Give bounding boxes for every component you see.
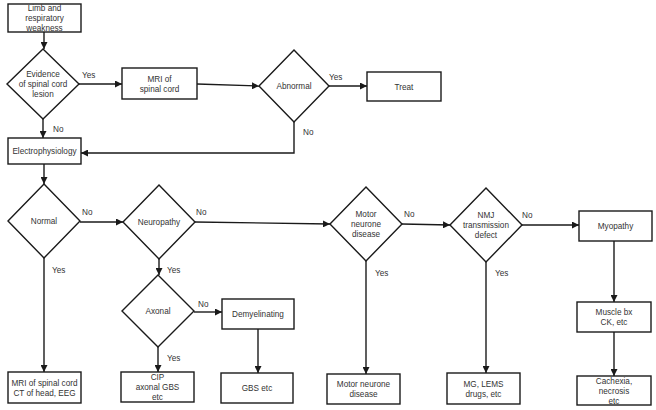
node-label-line: CK, etc xyxy=(601,318,628,327)
flowchart-canvas: Limb andrespiratoryweaknessEvidenceof sp… xyxy=(0,0,656,410)
node-label-line: etc xyxy=(152,393,163,402)
node-label-line: Axonal xyxy=(145,307,170,316)
node-neuropathy: Neuropathy xyxy=(123,185,195,259)
nodes-layer: Limb andrespiratoryweaknessEvidenceof sp… xyxy=(7,4,652,406)
node-label-line: spinal cord xyxy=(140,85,180,94)
process-box xyxy=(447,373,520,404)
node-muscle-bx: Muscle bxCK, etc xyxy=(577,302,651,332)
node-label-line: transmission xyxy=(463,221,509,230)
node-label-line: drugs, etc xyxy=(466,390,502,399)
node-label-line: MG, LEMS xyxy=(463,380,504,389)
edge-abnormal-to-electro xyxy=(81,122,294,153)
node-label-line: Evidence xyxy=(26,70,60,79)
node-label-line: weakness xyxy=(25,24,62,33)
node-label-line: Limb and xyxy=(28,4,62,13)
node-label-line: Treat xyxy=(395,83,415,92)
edge-label-yes: Yes xyxy=(82,71,95,80)
node-label-line: Motor xyxy=(356,210,377,219)
node-out-mnd: Motor neuronedisease xyxy=(327,374,400,404)
node-axonal: Axonal xyxy=(122,275,194,347)
edge-label-no: No xyxy=(53,125,64,134)
process-box xyxy=(8,372,81,403)
node-label-line: Normal xyxy=(31,217,58,226)
edge-label-yes: Yes xyxy=(495,269,508,278)
node-label-line: Muscle bx xyxy=(596,308,633,317)
node-demyelinating: Demyelinating xyxy=(222,299,294,329)
node-label-line: MRI of spinal cord xyxy=(12,379,78,388)
node-out-normal: MRI of spinal cordCT of head, EEG xyxy=(8,372,81,403)
node-out-axonal: CIPaxonal GBSetc xyxy=(121,372,194,402)
node-label-line: defect xyxy=(475,231,498,240)
node-start: Limb andrespiratoryweakness xyxy=(8,4,81,33)
edge-label-yes: Yes xyxy=(167,266,180,275)
edge-label-yes: Yes xyxy=(167,354,180,363)
node-label-line: necrosis xyxy=(599,387,630,396)
node-label-line: Myopathy xyxy=(598,222,634,231)
node-label-line: of spinal cord xyxy=(19,80,68,89)
edge-label-no: No xyxy=(82,208,93,217)
node-label-line: Motor neurone xyxy=(337,380,391,389)
process-box xyxy=(577,302,651,332)
node-out-demyel: GBS etc xyxy=(221,373,293,403)
edge-label-no: No xyxy=(404,210,415,219)
node-out-nmj: MG, LEMSdrugs, etc xyxy=(447,373,520,404)
node-label-line: disease xyxy=(349,390,378,399)
edge-label-no: No xyxy=(198,300,209,309)
node-label-line: respiratory xyxy=(25,14,65,23)
node-label-line: CIP xyxy=(151,373,165,382)
edge-label-no: No xyxy=(303,128,314,137)
node-spinal-lesion: Evidenceof spinal cordlesion xyxy=(7,49,79,119)
edge-label-yes: Yes xyxy=(52,266,65,275)
edge-label-no: No xyxy=(196,208,207,217)
edge-mnd_q-to-nmj_q xyxy=(402,224,450,225)
node-label-line: axonal GBS xyxy=(136,383,180,392)
node-label-line: Abnormal xyxy=(276,82,311,91)
edge-label-yes: Yes xyxy=(329,73,342,82)
node-label-line: Cachexia, xyxy=(596,377,632,386)
node-nmj-q: NMJtransmissiondefect xyxy=(450,188,522,262)
edge-mri_spinal-to-abnormal xyxy=(197,84,259,86)
node-myopathy: Myopathy xyxy=(579,211,652,241)
process-box xyxy=(122,68,197,99)
edge-label-no: No xyxy=(522,211,533,220)
node-label-line: Electrophysiology xyxy=(12,147,77,156)
node-label-line: GBS etc xyxy=(242,384,273,393)
node-label-line: CT of head, EEG xyxy=(13,389,75,398)
node-normal: Normal xyxy=(8,184,80,258)
node-mnd-q: Motorneuronedisease xyxy=(330,187,402,261)
node-label-line: lesion xyxy=(32,90,54,99)
node-label-line: NMJ xyxy=(478,211,495,220)
node-label-line: Neuropathy xyxy=(138,218,181,227)
edge-label-yes: Yes xyxy=(375,269,388,278)
process-box xyxy=(327,374,400,404)
node-out-myo: Cachexia,necrosisetc xyxy=(577,376,651,406)
edge-neuropathy-to-mnd_q xyxy=(195,222,330,224)
node-abnormal: Abnormal xyxy=(259,50,329,122)
node-label-line: neurone xyxy=(351,220,381,229)
node-electro: Electrophysiology xyxy=(8,138,81,164)
node-label-line: disease xyxy=(352,230,381,239)
node-treat: Treat xyxy=(367,72,441,101)
node-label-line: MRI of xyxy=(147,75,172,84)
node-mri-spinal: MRI ofspinal cord xyxy=(122,68,197,99)
node-label-line: Demyelinating xyxy=(232,310,284,319)
node-label-line: etc xyxy=(609,397,620,406)
